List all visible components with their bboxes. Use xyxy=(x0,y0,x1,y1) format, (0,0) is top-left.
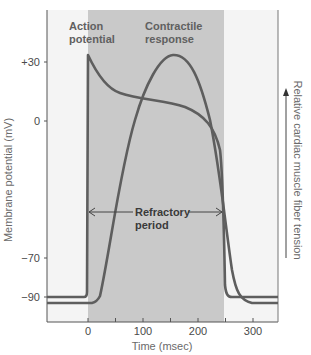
x-tick-100: 100 xyxy=(134,325,152,337)
action-potential-label-line2: potential xyxy=(69,33,115,45)
y-tick-minus70: −70 xyxy=(21,252,40,264)
cardiac-chart: +30 0 −70 −90 0 100 200 300 Time (msec) … xyxy=(0,0,311,355)
y2-axis-title: Relative cardiac muscle fiber tension xyxy=(292,80,304,259)
refractory-label-line2: period xyxy=(135,219,169,231)
x-axis-title: Time (msec) xyxy=(132,340,193,352)
shaded-region xyxy=(88,10,224,322)
y-tick-0: 0 xyxy=(34,115,40,127)
action-potential-label-line1: Action xyxy=(69,20,104,32)
y-tick-minus90: −90 xyxy=(21,291,40,303)
tension-arrow-head-icon xyxy=(283,88,289,96)
contractile-response-label-line2: response xyxy=(145,33,194,45)
refractory-label-line1: Refractory xyxy=(135,206,191,218)
y-axis-title: Membrane potential (mV) xyxy=(2,118,14,242)
x-tick-300: 300 xyxy=(244,325,262,337)
x-tick-0: 0 xyxy=(85,325,91,337)
contractile-response-label-line1: Contractile xyxy=(145,20,202,32)
y-tick-30: +30 xyxy=(21,56,40,68)
x-tick-200: 200 xyxy=(189,325,207,337)
